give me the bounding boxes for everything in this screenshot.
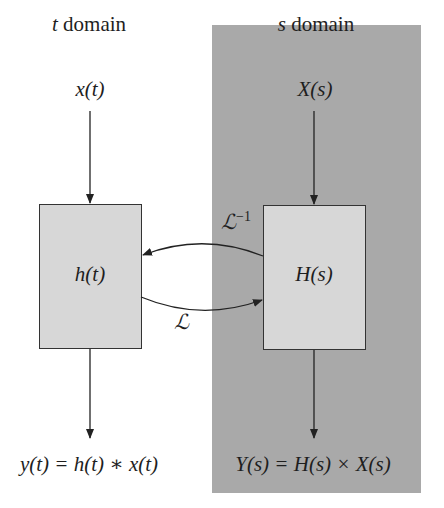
arrow-laplace — [141, 297, 262, 310]
arrows — [0, 0, 444, 508]
arrow-inverse-laplace — [143, 244, 263, 256]
